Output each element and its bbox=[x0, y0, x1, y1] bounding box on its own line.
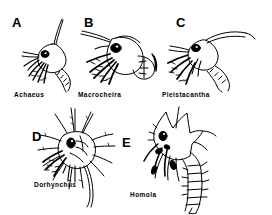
larvae-figure-plate: ...... . . . .. A bbox=[0, 0, 272, 215]
cropped-caption-artifact: ...... . . . .. bbox=[0, 0, 272, 8]
panel-letter-e: E bbox=[122, 136, 131, 149]
genus-label-homola: Homola bbox=[130, 192, 157, 199]
genus-label-macrocheira: Macrocheira bbox=[78, 92, 121, 99]
genus-label-dorhynchus: Dorhynchus bbox=[34, 182, 76, 189]
genus-label-pleistacantha: Pleistacantha bbox=[162, 92, 210, 99]
genus-label-achaeus: Achaeus bbox=[14, 92, 44, 99]
